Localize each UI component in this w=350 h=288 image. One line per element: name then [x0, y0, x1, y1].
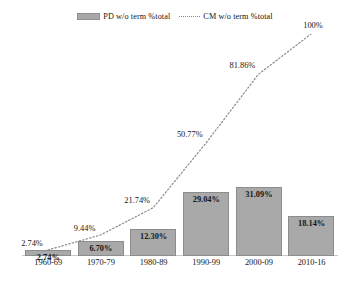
bar-slot: 29.04% — [180, 34, 233, 256]
bar-value-label: 18.14% — [285, 219, 338, 228]
bar-value-label: 31.09% — [233, 190, 286, 199]
bar-slot: 12.30% — [127, 34, 180, 256]
bar-slot: 31.09% — [233, 34, 286, 256]
bar-slot: 2.74% — [22, 34, 75, 256]
legend-label-pd: PD w/o term %total — [103, 12, 170, 21]
plot-area: 2.74% 6.70% 12.30% 29.04% 31.09% 18.14% — [22, 34, 338, 256]
x-tick-label: 1970-79 — [75, 258, 128, 267]
line-value-label: 100% — [303, 21, 323, 30]
chart-container: PD w/o term %total CM w/o term %total 2.… — [0, 0, 350, 288]
chart-legend: PD w/o term %total CM w/o term %total — [0, 12, 350, 21]
legend-label-cm: CM w/o term %total — [203, 12, 272, 21]
x-tick-label: 1960-69 — [22, 258, 75, 267]
x-tick-label: 1990-99 — [180, 258, 233, 267]
bar-swatch-icon — [77, 13, 100, 20]
x-axis-labels: 1960-69 1970-79 1980-89 1990-99 2000-09 … — [22, 258, 338, 274]
bar-value-label: 6.70% — [75, 244, 128, 253]
dotted-line-swatch-icon — [179, 16, 200, 17]
x-tick-label: 2010-16 — [285, 258, 338, 267]
legend-item-pd: PD w/o term %total — [77, 12, 170, 21]
x-tick-label: 2000-09 — [233, 258, 286, 267]
bar-value-label: 29.04% — [180, 195, 233, 204]
bar-value-label: 12.30% — [127, 232, 180, 241]
legend-item-cm: CM w/o term %total — [179, 12, 272, 21]
bar-slot: 6.70% — [75, 34, 128, 256]
bar-series-pd: 2.74% 6.70% 12.30% 29.04% 31.09% 18.14% — [22, 34, 338, 256]
x-tick-label: 1980-89 — [127, 258, 180, 267]
bar-slot: 18.14% — [285, 34, 338, 256]
